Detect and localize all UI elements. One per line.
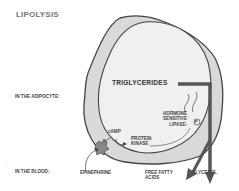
free-fatty-acids-label: FREE FATTY ACIDS: [145, 170, 173, 181]
epinephrine-label: EPINEPHRINE: [80, 170, 111, 175]
phosphate-label: P: [195, 120, 198, 124]
camp-label: cAMP: [108, 129, 121, 134]
hormone-sensitive-lipase-label: HORMONE SENSITIVE LIPASE-: [163, 111, 187, 127]
glycerol-label: GLYCEROL: [192, 170, 217, 175]
protein-kinase-label: PROTEIN KINASE: [131, 136, 151, 147]
triglycerides-label: TRIGLYCERIDES: [112, 80, 167, 87]
diagram-title: LIPOLYSIS: [16, 11, 59, 19]
region-blood-label: IN THE BLOOD:: [15, 170, 49, 175]
region-adipocyte-label: IN THE ADIPOCYTE:: [15, 95, 60, 100]
